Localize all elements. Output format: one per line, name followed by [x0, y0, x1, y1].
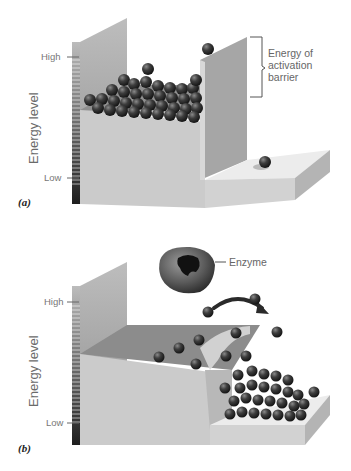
low-step-front	[210, 425, 305, 445]
block-front	[80, 110, 205, 208]
callout-line-1: Energy of	[268, 47, 313, 59]
barrier-wall	[200, 37, 247, 180]
arrow-head	[256, 302, 269, 314]
activation-bracket	[250, 37, 265, 97]
panel-b: Energy level High Low (b) Enzyme	[0, 230, 351, 471]
callout-line-2: activation	[268, 59, 313, 71]
axis-title-energy-level: Energy level	[26, 92, 41, 164]
tick-label-low: Low	[46, 417, 63, 428]
panel-label-a: (a)	[18, 196, 31, 208]
product-molecule	[259, 156, 271, 168]
callout-activation-barrier: Energy of activation barrier	[268, 47, 313, 83]
callout-line-3: barrier	[268, 71, 313, 83]
low-step-front	[205, 178, 295, 208]
tick-label-high: High	[44, 296, 64, 307]
block-front	[80, 354, 210, 445]
enzyme-shape	[159, 247, 215, 293]
panel-a: Energy level High Low (a) Energy of acti…	[0, 0, 351, 230]
energy-diagram-b	[0, 230, 351, 471]
axis-title-energy-level: Energy level	[26, 335, 41, 407]
energy-diagram-a	[0, 0, 351, 230]
tick-label-low: Low	[44, 172, 61, 183]
callout-enzyme: Enzyme	[229, 256, 267, 268]
panel-label-b: (b)	[18, 442, 31, 454]
tick-label-high: High	[41, 51, 61, 62]
